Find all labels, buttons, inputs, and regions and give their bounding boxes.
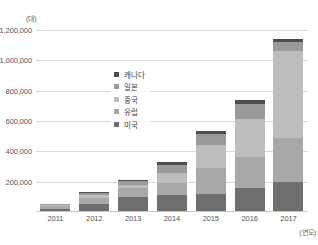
bar-segment-중국 [157,173,187,183]
legend-item-일본[interactable]: 일본 [114,82,144,92]
bar-segment-유럽 [157,183,187,195]
legend-swatch-icon [114,109,119,114]
bar-segment-일본 [196,134,226,145]
bar-2011 [40,30,70,212]
x-axis-tick-label: 2014 [157,214,187,223]
bar-segment-미국 [118,197,148,212]
x-axis-tick-label: 2011 [40,214,70,223]
legend-item-label: 캐나다 [124,69,144,80]
bar-segment-유럽 [273,138,303,182]
legend-swatch-icon [114,84,119,89]
bar-segment-중국 [196,145,226,168]
y-axis-tick-label: 600,000 [6,117,32,126]
x-axis-unit-label: (연도) [299,227,316,237]
legend-item-미국[interactable]: 미국 [114,119,144,129]
legend-item-label: 일본 [124,81,138,92]
x-axis-tick-label: 2013 [118,214,148,223]
y-axis-tick-label: 400,000 [6,147,32,156]
legend-item-유럽[interactable]: 유럽 [114,107,144,117]
legend-item-중국[interactable]: 중국 [114,94,144,104]
bar-2017 [273,30,303,212]
stacked-bar-chart: (대) 200,000400,000600,000800,0001,000,00… [0,0,318,245]
x-axis-labels: 2011201220132014201520162017 [36,214,308,223]
bar-segment-중국 [273,51,303,138]
chart-legend: 캐나다일본중국유럽미국 [110,66,150,132]
legend-swatch-icon [114,97,119,102]
x-axis-tick-label: 2012 [79,214,109,223]
bar-segment-중국 [235,119,265,156]
legend-item-label: 유럽 [124,106,138,117]
bar-2014 [157,30,187,212]
legend-item-label: 미국 [124,119,138,130]
bar-segment-미국 [273,182,303,212]
legend-item-label: 중국 [124,94,138,105]
legend-swatch-icon [114,122,119,127]
bar-segment-일본 [235,104,265,119]
bar-2016 [235,30,265,212]
bar-segment-유럽 [118,188,148,197]
y-axis-tick-label: 1,000,000 [0,56,32,65]
bar-segment-미국 [235,188,265,212]
bar-segment-유럽 [196,168,226,194]
y-axis-tick-label: 800,000 [6,86,32,95]
x-axis-tick-label: 2017 [273,214,303,223]
y-axis-tick-label: 200,000 [6,177,32,186]
y-axis-tick-label: 1,200,000 [0,26,32,35]
x-axis-tick-label: 2015 [196,214,226,223]
bar-segment-미국 [157,195,187,212]
bar-segment-일본 [273,42,303,51]
x-axis-tick-label: 2016 [235,214,265,223]
plot-area: 200,000400,000600,000800,0001,000,0001,2… [36,30,308,212]
y-axis-unit-label: (대) [26,13,37,23]
bar-segment-유럽 [235,157,265,188]
bar-2012 [79,30,109,212]
legend-item-캐나다[interactable]: 캐나다 [114,69,144,79]
bar-group [36,30,308,212]
bar-segment-일본 [157,165,187,173]
bar-2015 [196,30,226,212]
bar-segment-미국 [196,194,226,212]
legend-swatch-icon [114,72,119,77]
x-axis-baseline [36,211,308,212]
